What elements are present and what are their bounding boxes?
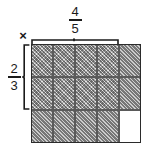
grid-cell [98,111,118,142]
grid-cell [98,78,118,109]
left-fraction-numerator: 2 [8,62,19,77]
fraction-area-model-diagram: 4 5 × 2 3 [0,0,150,152]
grid-cell [54,45,74,76]
grid-cell [32,45,52,76]
grid-cell-empty [120,111,140,142]
grid-cell [98,45,118,76]
area-model-grid [31,44,141,143]
left-fraction-denominator: 3 [8,78,19,93]
top-fraction-numerator: 4 [69,5,80,20]
grid-cell [76,45,96,76]
top-fraction-denominator: 5 [69,21,80,36]
grid-cell [32,111,52,142]
left-bracket-icon [22,44,30,110]
grid-cell [120,78,140,109]
grid-cell [76,111,96,142]
multiplication-sign: × [16,29,30,43]
grid-cell [54,111,74,142]
grid-cell [120,45,140,76]
grid-cell [76,78,96,109]
top-fraction-label: 4 5 [63,4,87,36]
grid-cell [32,78,52,109]
grid-cell [54,78,74,109]
